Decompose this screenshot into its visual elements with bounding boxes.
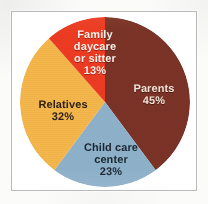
pie-chart-area: Parents 45% Family daycare or sitter 13%… [12,12,197,191]
chart-figure-frame: Parents 45% Family daycare or sitter 13%… [11,11,197,191]
pie-chart [20,17,190,187]
